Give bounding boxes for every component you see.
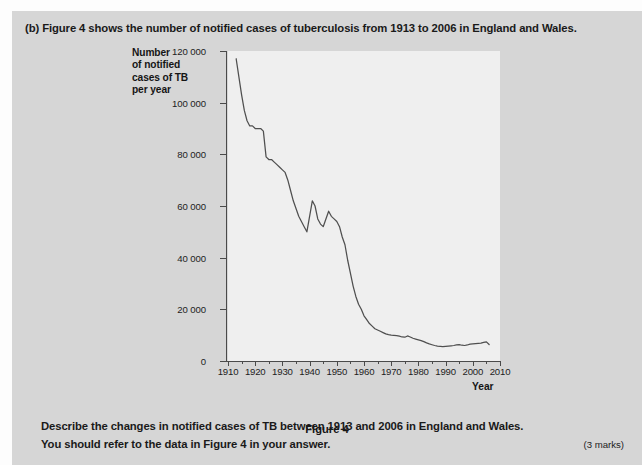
y-tick-label: 120 000	[172, 46, 206, 57]
exam-page: (b) Figure 4 shows the number of notifie…	[0, 0, 642, 465]
y-axis-title-line-1: Number	[132, 47, 170, 58]
x-tick-label: 2000	[463, 366, 484, 377]
x-axis-title: Year	[472, 381, 494, 392]
x-tick-label: 1950	[327, 366, 348, 377]
x-tick-minor	[323, 362, 324, 364]
x-tick-minor	[350, 362, 351, 364]
y-tick-label: 40 000	[177, 252, 206, 263]
x-tick-label: 1960	[354, 366, 375, 377]
y-axis-title-line-4: per year	[132, 84, 171, 95]
x-tick-minor	[269, 362, 270, 364]
x-tick-minor	[432, 362, 433, 364]
y-tick	[220, 103, 226, 104]
tb-cases-polyline	[236, 59, 489, 347]
exam-sheet: (b) Figure 4 shows the number of notifie…	[12, 11, 642, 465]
x-tick-minor	[296, 362, 297, 364]
x-tick-label: 1910	[218, 366, 239, 377]
y-tick-label: 100 000	[172, 97, 206, 108]
x-tick-minor	[486, 362, 487, 364]
y-tick	[220, 206, 226, 207]
figure-4: Number of notified cases of TB per year …	[12, 40, 642, 400]
x-tick-minor	[405, 362, 406, 364]
marks-allocation: (3 marks)	[583, 439, 624, 450]
tb-cases-line	[228, 51, 500, 361]
x-tick-label: 1920	[245, 366, 266, 377]
x-tick-minor	[459, 362, 460, 364]
x-tick-label: 1980	[408, 366, 429, 377]
x-tick-label: 1930	[272, 366, 293, 377]
x-tick-label: 1940	[299, 366, 320, 377]
y-tick-label: 0	[201, 356, 206, 367]
y-axis-title-line-2: of notified	[132, 59, 180, 70]
y-tick-label: 60 000	[177, 201, 206, 212]
x-tick-minor	[242, 362, 243, 364]
y-tick	[220, 51, 226, 52]
x-tick-label: 2010	[490, 366, 511, 377]
y-tick	[220, 154, 226, 155]
question-task-line-1: Describe the changes in notified cases o…	[41, 420, 631, 432]
y-tick	[220, 309, 226, 310]
y-tick	[220, 258, 226, 259]
question-task-line-2: You should refer to the data in Figure 4…	[41, 438, 631, 450]
x-tick-label: 1990	[435, 366, 456, 377]
y-tick	[220, 361, 226, 362]
y-axis-line	[226, 51, 227, 362]
question-stem: (b) Figure 4 shows the number of notifie…	[25, 22, 625, 34]
y-tick-label: 80 000	[177, 149, 206, 160]
y-tick-label: 20 000	[177, 304, 206, 315]
x-tick-label: 1970	[381, 366, 402, 377]
x-tick-minor	[378, 362, 379, 364]
y-axis-title-line-3: cases of TB	[132, 72, 188, 83]
